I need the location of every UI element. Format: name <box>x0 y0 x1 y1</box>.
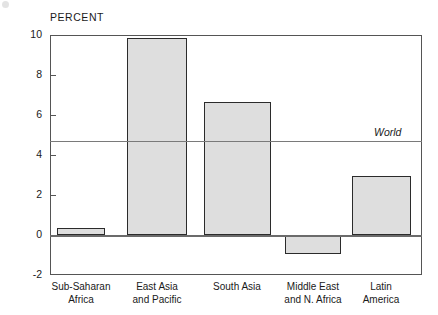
bar <box>352 176 411 235</box>
percent-bar-chart: PERCENT 1086420-2 World Sub-Saharan Afri… <box>0 0 438 315</box>
y-axis-tick-mark <box>50 155 56 156</box>
x-axis-category-label: Sub-Saharan Africa <box>44 281 118 306</box>
bar <box>204 102 271 235</box>
bar <box>285 235 341 254</box>
y-axis-tick-label: 8 <box>8 68 42 80</box>
y-axis-tick-label: 0 <box>8 228 42 240</box>
zero-baseline <box>50 235 422 237</box>
y-axis-tick-label: 10 <box>8 28 42 40</box>
y-axis-tick-label: -2 <box>8 268 42 280</box>
y-axis-tick-mark <box>50 75 56 76</box>
y-axis-tick-mark <box>50 195 56 196</box>
world-reference-label: World <box>374 126 401 138</box>
world-reference-line <box>50 141 422 142</box>
x-axis-category-label: South Asia <box>200 281 274 294</box>
scan-artifact <box>2 1 9 8</box>
x-axis-category-label: East Asia and Pacific <box>120 281 194 306</box>
y-axis-tick-label: 2 <box>8 188 42 200</box>
x-axis-category-label: Latin America <box>344 281 418 306</box>
bar <box>127 38 187 235</box>
y-axis-tick-mark <box>50 115 56 116</box>
bar <box>57 228 105 235</box>
y-axis-title: PERCENT <box>50 11 104 23</box>
y-axis-tick-label: 6 <box>8 108 42 120</box>
y-axis-tick-label: 4 <box>8 148 42 160</box>
x-axis-category-label: Middle East and N. Africa <box>276 281 350 306</box>
